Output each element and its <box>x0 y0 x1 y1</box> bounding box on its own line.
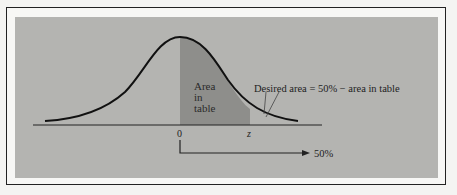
area-label-line-3: table <box>194 103 215 114</box>
mean-zero-label: 0 <box>177 128 182 139</box>
normal-curve <box>45 37 298 121</box>
normal-curve-diagram <box>0 0 457 195</box>
area-in-table-label: Area in table <box>194 81 215 114</box>
arrow-head-icon <box>302 150 310 156</box>
fifty-percent-label: 50% <box>314 148 333 159</box>
desired-area-annotation: Desired area = 50% − area in table <box>254 83 400 94</box>
annotation-leader <box>264 92 266 114</box>
annotation-leader-2 <box>266 92 279 117</box>
z-label: z <box>247 128 251 139</box>
fifty-percent-bracket <box>180 140 302 153</box>
